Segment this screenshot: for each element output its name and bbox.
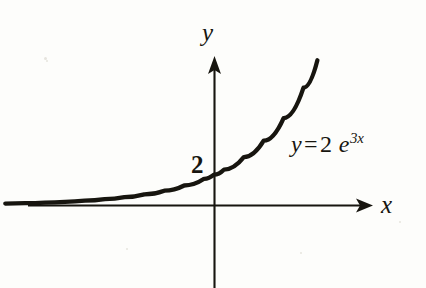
equation-exponent: 3x xyxy=(350,130,364,146)
x-axis-label: x xyxy=(381,192,392,217)
exponential-function-figure: y x 2 y=2 e3x xyxy=(0,0,426,288)
exponential-curve xyxy=(5,60,317,203)
equation-base: e xyxy=(339,131,350,157)
equation-coefficient: 2 xyxy=(320,131,332,157)
equation-operator: = xyxy=(302,131,320,157)
equation-variable: y xyxy=(291,131,302,157)
y-axis-label: y xyxy=(202,20,213,45)
curve-equation-label: y=2 e3x xyxy=(291,131,364,156)
y-intercept-label: 2 xyxy=(191,152,204,177)
